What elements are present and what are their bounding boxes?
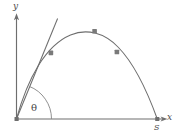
range-label: S xyxy=(154,124,159,132)
x-axis xyxy=(17,116,168,121)
y-axis-label: y xyxy=(13,2,18,11)
trajectory-marker-3 xyxy=(115,50,120,55)
launch-angle-label: θ xyxy=(31,103,37,113)
figure-canvas xyxy=(0,0,177,139)
landing-point-marker xyxy=(155,117,159,121)
projectile-motion-figure: y x S θ xyxy=(0,0,177,139)
y-axis xyxy=(14,13,19,119)
x-axis-label: x xyxy=(167,113,172,122)
origin-marker xyxy=(15,117,19,121)
trajectory-curve xyxy=(17,32,158,119)
trajectory-marker-2 xyxy=(92,29,97,34)
trajectory-marker-1 xyxy=(49,51,54,56)
